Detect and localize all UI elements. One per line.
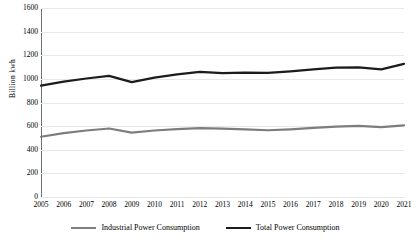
y-axis-tick-label: 800 <box>4 99 38 107</box>
y-axis-tick-labels: 16001400120010008006004002000 <box>0 0 38 205</box>
legend-label: Total Power Consumption <box>256 223 340 233</box>
series-line <box>41 125 404 136</box>
y-axis-tick-label: 1400 <box>4 28 38 36</box>
legend-label: Industrial Power Consumption <box>101 223 199 233</box>
plot-area <box>41 8 404 197</box>
legend-line-swatch <box>71 227 96 229</box>
gridline <box>41 197 404 198</box>
x-axis-tick-labels: 2005200620072008200920102011201220132014… <box>41 200 404 214</box>
y-axis-tick-label: 1600 <box>4 4 38 12</box>
y-axis-tick-label: 1000 <box>4 75 38 83</box>
y-axis-tick-label: 1200 <box>4 51 38 59</box>
x-axis-tick-label: 2021 <box>384 200 416 210</box>
legend-item[interactable]: Total Power Consumption <box>226 223 340 233</box>
series-lines <box>41 8 404 197</box>
y-axis-tick-label: 200 <box>4 169 38 177</box>
chart-legend: Industrial Power ConsumptionTotal Power … <box>0 223 411 233</box>
legend-item[interactable]: Industrial Power Consumption <box>71 223 199 233</box>
series-line <box>41 64 404 86</box>
y-axis-tick-label: 600 <box>4 122 38 130</box>
legend-line-swatch <box>226 227 251 229</box>
y-axis-tick-label: 400 <box>4 146 38 154</box>
